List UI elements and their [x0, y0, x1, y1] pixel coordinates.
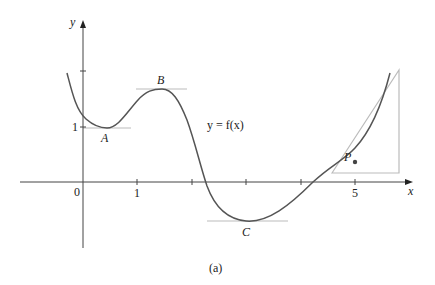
- y-axis-label: y: [69, 15, 76, 29]
- tangent-triangle-p: [332, 70, 399, 173]
- function-graph: y x 0 1 5 1 A B C P y = f(x) (a): [0, 0, 435, 285]
- point-a-label: A: [100, 131, 109, 145]
- function-label: y = f(x): [207, 118, 244, 132]
- point-c-label: C: [242, 225, 251, 239]
- x-tick-label-5: 5: [352, 186, 358, 200]
- y-axis-arrow-icon: [80, 20, 86, 28]
- point-p-label: P: [343, 150, 352, 164]
- origin-label: 0: [74, 185, 80, 199]
- x-axis-label: x: [407, 184, 414, 198]
- y-tick-label-1: 1: [72, 120, 78, 134]
- point-b-label: B: [157, 73, 165, 87]
- figure-caption: (a): [209, 261, 222, 275]
- point-p-marker: [353, 160, 357, 164]
- x-tick-label-1: 1: [134, 186, 140, 200]
- function-curve: [67, 73, 390, 221]
